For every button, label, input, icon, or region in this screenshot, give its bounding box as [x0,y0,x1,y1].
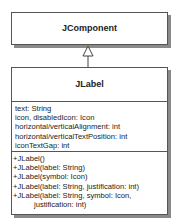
method: +JLabel(label: String, justification: in… [13,182,167,191]
attribute: icon, disabledIcon: Icon [15,113,167,122]
attribute: text: String [15,104,167,113]
class-name: JLabel [12,68,167,102]
inheritance-arrow-icon [80,44,96,68]
attribute: horizontal/verticalTextPosition: int [15,132,167,141]
method: +JLabel(label: String) [13,163,167,172]
class-name: JComponent [12,13,167,44]
method: +JLabel(label: String, symbol: Icon, [13,191,167,200]
attributes-section: text: String icon, disabledIcon: Icon ho… [12,102,167,152]
attribute: horizontal/verticalAlignment: int [15,122,167,131]
class-box-jcomponent: JComponent [11,12,168,45]
methods-section: +JLabel() +JLabel(label: String) +JLabel… [12,152,167,209]
method: +JLabel() [13,154,167,163]
method: +JLabel(symbol: Icon) [13,172,167,181]
class-box-jlabel: JLabel text: String icon, disabledIcon: … [11,67,168,215]
attribute: iconTextGap: int [15,141,167,150]
method-continuation: justification: int) [13,200,167,209]
